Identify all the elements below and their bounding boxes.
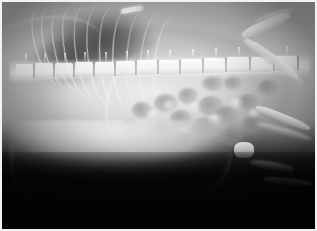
- radiograph-viewer: Lateral abdominal radiograph: [0, 0, 317, 231]
- bone-femur-2: [253, 41, 306, 87]
- image-frame: [0, 0, 317, 231]
- plate-background: [2, 152, 315, 229]
- radiograph-plate: [2, 2, 315, 229]
